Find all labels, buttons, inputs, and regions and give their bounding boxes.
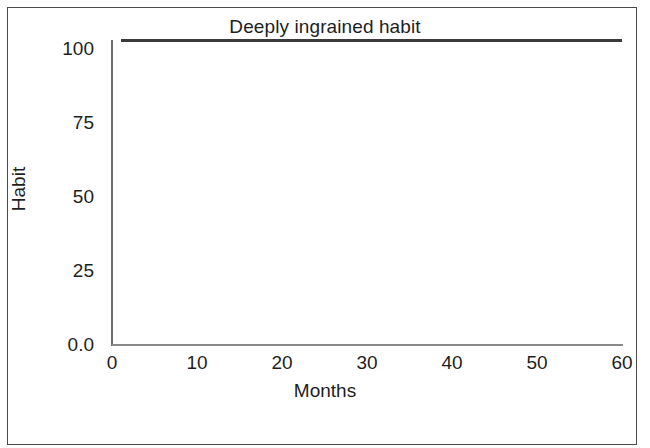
x-axis-tick-labels: 0102030405060	[0, 352, 650, 378]
x-tick-label: 20	[271, 352, 292, 374]
plot-area	[112, 40, 622, 345]
x-tick-label: 60	[611, 352, 632, 374]
y-tick-label: 25	[3, 260, 103, 282]
x-tick-label: 50	[526, 352, 547, 374]
x-tick-label: 0	[107, 352, 118, 374]
chart-figure: Deeply ingrained habit Habit Months 0.02…	[0, 0, 650, 448]
y-tick-label: 50	[3, 186, 103, 208]
y-tick-label: 75	[3, 112, 103, 134]
y-axis-tick-labels: 0.0255075100	[0, 0, 103, 448]
x-tick-label: 40	[441, 352, 462, 374]
series-line-segment	[121, 39, 623, 42]
x-tick-label: 30	[356, 352, 377, 374]
y-tick-label: 100	[3, 38, 103, 60]
x-tick-label: 10	[186, 352, 207, 374]
